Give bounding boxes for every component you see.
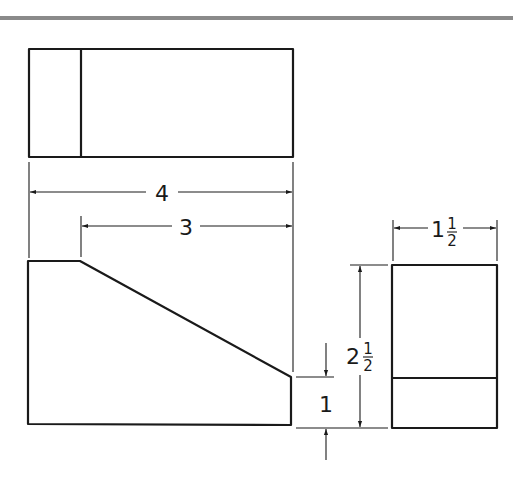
top-view-outline <box>29 49 293 157</box>
dimension-label-1: 1 <box>319 392 333 417</box>
dimension-slope-width: 3 <box>82 215 292 240</box>
right-side-view <box>392 265 497 428</box>
dimension-depth: 1 1 2 <box>394 215 496 250</box>
dimension-overall-width: 4 <box>30 181 292 206</box>
dimension-low-height: 1 <box>319 343 333 460</box>
dimension-height: 2 1 2 <box>346 266 373 427</box>
side-view-outline <box>392 265 497 428</box>
dimension-depth-denominator: 2 <box>447 232 457 250</box>
top-view <box>29 49 293 157</box>
dimension-height-whole: 2 <box>346 344 360 369</box>
front-view <box>28 261 291 425</box>
dimension-depth-numerator: 1 <box>447 215 457 233</box>
dimension-label-4: 4 <box>155 181 169 206</box>
front-view-outline <box>28 261 291 425</box>
dimension-label-3: 3 <box>179 215 193 240</box>
technical-drawing: 4 3 1 2 1 2 1 1 2 <box>0 0 513 480</box>
dimension-height-denominator: 2 <box>363 357 373 375</box>
dimension-height-numerator: 1 <box>363 340 373 358</box>
dimension-depth-whole: 1 <box>431 217 445 242</box>
